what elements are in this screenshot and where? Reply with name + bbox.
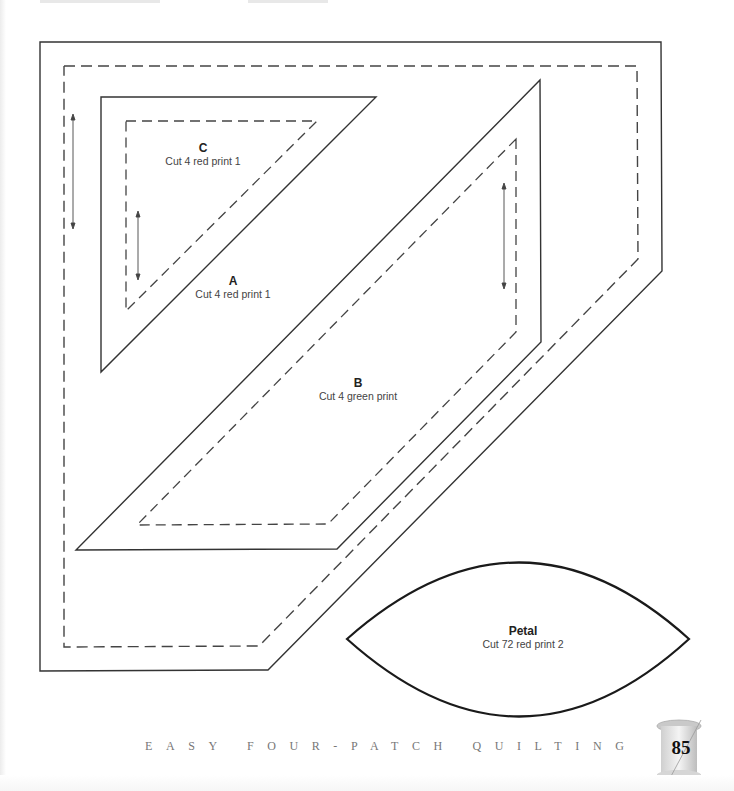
- piece-a-triangle: [101, 97, 376, 372]
- grain-arrow-outer: [71, 114, 75, 229]
- grain-arrow-c: [136, 211, 140, 280]
- piece-b-instruction: Cut 4 green print: [319, 390, 397, 403]
- piece-c-instruction: Cut 4 red print 1: [165, 155, 240, 168]
- piece-c-label: C Cut 4 red print 1: [165, 142, 240, 168]
- petal-instruction: Cut 72 red print 2: [482, 638, 563, 651]
- piece-c-name: C: [165, 142, 240, 155]
- piece-a-name: A: [195, 275, 270, 288]
- piece-a-instruction: Cut 4 red print 1: [195, 288, 270, 301]
- petal-name: Petal: [482, 625, 563, 638]
- piece-b-name: B: [319, 377, 397, 390]
- piece-b-parallelogram: [76, 80, 541, 550]
- page-number: 85: [663, 737, 699, 759]
- piece-a-label: A Cut 4 red print 1: [195, 275, 270, 301]
- next-page-bleed: [0, 775, 734, 791]
- book-title-footer: EASY FOUR-PATCH QUILTING: [145, 739, 637, 754]
- piece-b-label: B Cut 4 green print: [319, 377, 397, 403]
- petal-label: Petal Cut 72 red print 2: [482, 625, 563, 651]
- outer-template: [40, 42, 662, 671]
- grain-arrow-b: [502, 183, 506, 289]
